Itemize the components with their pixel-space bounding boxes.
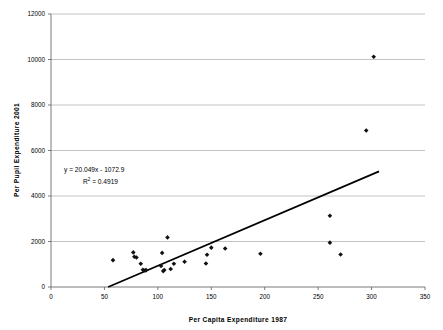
y-axis-title: Per Pupil Expenditure 2001 [13,103,21,197]
r-squared-label: R2 = 0.4919 [83,177,118,185]
data-point-marker [172,261,177,266]
data-point-marker [182,259,187,264]
y-tick-label: 0 [41,283,45,290]
r-squared-value: = 0.4919 [90,178,118,185]
data-point-marker [205,252,210,257]
x-tick-label: 150 [206,293,217,300]
y-tick-label: 12000 [27,10,45,17]
y-tick-label: 6000 [31,147,46,154]
data-point-marker [165,235,170,240]
data-points [111,54,376,273]
data-point-marker [111,258,116,263]
data-point-marker [204,261,209,266]
data-point-marker [328,240,333,245]
x-tick-label: 0 [49,293,53,300]
x-axis-tick-labels: 050100150200250300350 [49,293,431,300]
data-point-marker [338,252,343,257]
x-tick-label: 250 [313,293,324,300]
y-tick-label: 10000 [27,56,45,63]
data-point-marker [371,54,376,59]
data-point-marker [258,251,263,256]
data-point-marker [168,267,173,272]
x-tick-label: 100 [153,293,164,300]
x-tick-label: 350 [420,293,431,300]
regression-equation-label: y = 20.049x - 1072.9 [64,166,125,174]
data-point-marker [209,245,214,250]
data-point-marker [138,261,143,266]
x-tick-label: 300 [366,293,377,300]
data-point-marker [223,246,228,251]
chart-canvas: 020004000600080001000012000 050100150200… [0,0,443,330]
y-axis-tick-labels: 020004000600080001000012000 [27,10,45,290]
gridlines [51,14,425,242]
data-point-marker [160,251,165,256]
x-axis-title: Per Capita Expenditure 1987 [189,316,288,324]
x-axis-ticks [51,287,425,290]
trend-line [108,171,379,287]
data-point-marker [131,250,136,255]
data-point-marker [364,128,369,133]
y-tick-label: 8000 [31,101,46,108]
scatter-chart: 020004000600080001000012000 050100150200… [0,0,443,330]
data-point-marker [328,213,333,218]
x-tick-label: 200 [259,293,270,300]
y-tick-label: 2000 [31,238,46,245]
x-tick-label: 50 [101,293,109,300]
y-tick-label: 4000 [31,192,46,199]
